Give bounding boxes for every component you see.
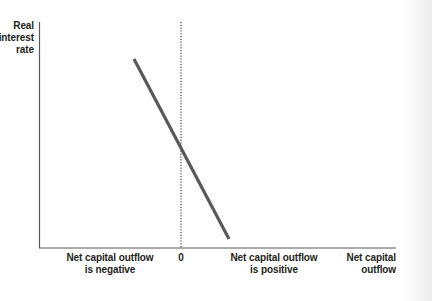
x-axis-label: Net capital outflow — [340, 252, 396, 276]
y-axis-label-line: interest — [0, 32, 34, 44]
x-tick-label-positive: Net capital outflow is positive — [224, 252, 324, 276]
net-capital-outflow-curve — [134, 59, 229, 239]
y-axis-label-line: rate — [0, 44, 34, 56]
y-axis-label: Real interest rate — [0, 20, 34, 56]
y-axis-label-line: Real — [0, 20, 34, 32]
x-tick-label-line: is positive — [224, 264, 324, 276]
x-axis-label-line: Net capital — [340, 252, 396, 264]
x-tick-label-negative: Net capital outflow is negative — [60, 252, 160, 276]
x-axis-label-line: outflow — [340, 264, 396, 276]
x-tick-label-line: is negative — [60, 264, 160, 276]
x-tick-label-line: Net capital outflow — [60, 252, 160, 264]
x-tick-label-line: Net capital outflow — [224, 252, 324, 264]
x-tick-label-zero: 0 — [172, 252, 190, 264]
